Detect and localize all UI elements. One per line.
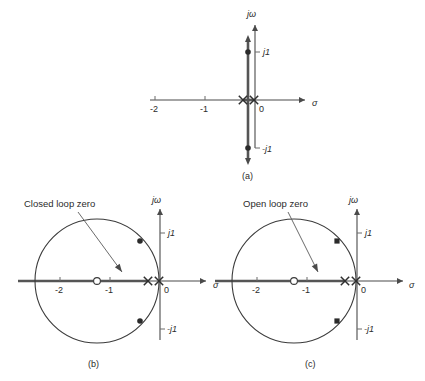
- panel-b: [18, 209, 206, 343]
- locus-point-a-0: [245, 49, 251, 55]
- panel-c: [215, 209, 403, 343]
- ytick-label-c-1: -j1: [364, 324, 374, 334]
- imag-axis-label-b: jω: [151, 195, 161, 205]
- real-axis-label-c: σ: [409, 280, 415, 290]
- panel-a: [150, 25, 305, 165]
- locus-point-b-0: [137, 238, 143, 244]
- imag-axis-label-c: jω: [348, 195, 358, 205]
- annotation-b: Closed loop zero: [24, 198, 95, 209]
- xtick-label-b-0: -2: [55, 285, 63, 295]
- panel-caption-a: (a): [242, 171, 253, 181]
- xtick-label-b-2: 0: [164, 285, 169, 295]
- real-axis-arrow-b: [200, 278, 206, 284]
- imag-axis-label-a: jω: [246, 9, 256, 19]
- ytick-label-a-1: -j1: [262, 144, 272, 154]
- xtick-label-a-2: 0: [259, 104, 264, 114]
- annotation-arrow-c: [312, 264, 318, 272]
- locus-point-c-0: [334, 238, 339, 243]
- ytick-label-b-1: -j1: [167, 324, 177, 334]
- locus-point-a-1: [245, 145, 251, 151]
- ytick-label-b-0: j1: [167, 228, 175, 238]
- locus-point-c-1: [334, 318, 339, 323]
- ytick-label-a-0: j1: [262, 47, 270, 57]
- zero-marker-c: [291, 278, 298, 285]
- panel-caption-c: (c): [305, 359, 316, 369]
- real-axis-arrow-c: [397, 278, 403, 284]
- labels-layer: -2-10j1-j1σjω(a)-2-10j1-j1σjωClosed loop…: [24, 9, 415, 369]
- locus-vertical-arrow-up-a: [245, 35, 251, 42]
- xtick-label-b-1: -1: [105, 285, 113, 295]
- imag-axis-arrow-c: [354, 209, 360, 215]
- annotation-c: Open loop zero: [243, 198, 308, 209]
- real-axis-label-b: σ: [213, 280, 219, 290]
- xtick-label-c-2: 0: [361, 285, 366, 295]
- root-locus-figure: -2-10j1-j1σjω(a)-2-10j1-j1σjωClosed loop…: [0, 0, 425, 381]
- zero-marker-b: [94, 278, 101, 285]
- locus-vertical-arrow-down-a: [245, 158, 251, 165]
- xtick-label-a-0: -2: [150, 104, 158, 114]
- xtick-label-a-1: -1: [200, 104, 208, 114]
- annotation-leader-c: [288, 212, 318, 272]
- ytick-label-c-0: j1: [364, 228, 372, 238]
- xtick-label-c-1: -1: [302, 285, 310, 295]
- imag-axis-arrow-b: [157, 209, 163, 215]
- real-axis-label-a: σ: [312, 98, 318, 108]
- imag-axis-arrow-a: [252, 25, 258, 31]
- real-axis-arrow-a: [299, 97, 305, 103]
- panel-caption-b: (b): [88, 359, 99, 369]
- xtick-label-c-0: -2: [252, 285, 260, 295]
- locus-point-b-1: [137, 318, 143, 324]
- annotation-leader-b: [78, 212, 122, 272]
- panels-layer: [18, 25, 403, 343]
- annotation-arrow-b: [115, 264, 122, 272]
